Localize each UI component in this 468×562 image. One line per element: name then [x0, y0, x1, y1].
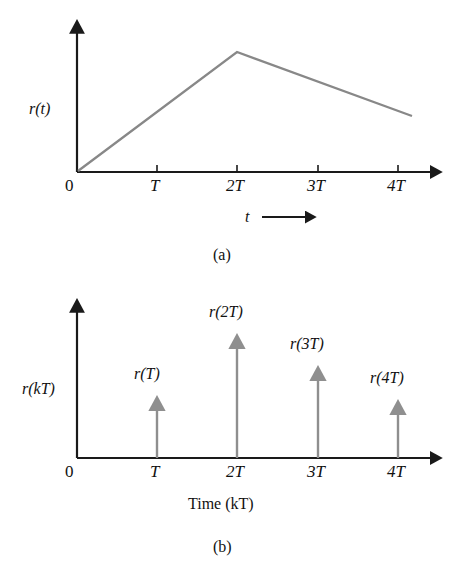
- panel-b-stem-label-rT: r(T): [134, 366, 160, 382]
- panel-b-tick-label-T: T: [150, 463, 159, 480]
- panel-a-waveform: [78, 52, 412, 171]
- panel-b-caption: (b): [213, 539, 232, 555]
- panel-a-y-axis-label: r(t): [29, 101, 50, 117]
- panel-b-tick-label-4T: 4T: [387, 463, 405, 480]
- panel-b-tick-label-0: 0: [65, 463, 74, 480]
- panel-a-tick-label-4T: 4T: [387, 177, 405, 194]
- panel-a-graphics: [77, 31, 432, 217]
- panel-a-tick-label-T: T: [150, 177, 159, 194]
- panel-a-caption: (a): [213, 247, 231, 263]
- figure-container: r(t) 0 T 2T 3T 4T t (a) r(kT) r(T) r(2T)…: [0, 0, 468, 562]
- panel-b-stem-label-r4T: r(4T): [370, 370, 404, 386]
- panel-b-stem-label-r3T: r(3T): [290, 336, 324, 352]
- panel-a-x-axis-title: t: [245, 209, 249, 225]
- panel-b-tick-label-2T: 2T: [226, 463, 244, 480]
- panel-b-x-axis-title: Time (kT): [188, 496, 254, 512]
- panel-b-y-axis-label: r(kT): [22, 381, 55, 397]
- panel-b-tick-label-3T: 3T: [307, 463, 325, 480]
- panel-b-stem-label-r2T: r(2T): [209, 304, 243, 320]
- panel-a-tick-label-3T: 3T: [307, 177, 325, 194]
- panel-a-tick-label-2T: 2T: [226, 177, 244, 194]
- panel-a-tick-label-0: 0: [65, 177, 74, 194]
